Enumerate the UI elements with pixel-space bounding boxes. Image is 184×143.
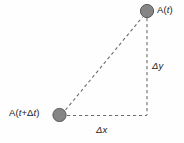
delta-y-label: Δy: [152, 61, 163, 71]
vector-displacement-figure: A(t) A(t+Δt) Δy Δx: [0, 0, 184, 143]
diagram-canvas: [0, 0, 184, 143]
point-marker-a-t-dt: [53, 108, 66, 121]
point-label-a-t: A(t): [157, 5, 173, 15]
displacement-line: [66, 17, 143, 110]
point-label-a-t-delta-t: A(t+Δt): [9, 108, 40, 118]
delta-x-label: Δx: [96, 125, 107, 135]
point-marker-a-t: [140, 4, 153, 17]
